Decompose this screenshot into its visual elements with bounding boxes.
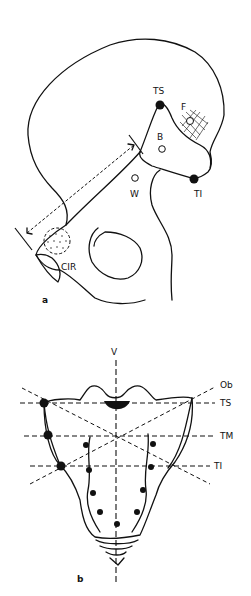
figure-canvas: TS F B W TI CIR a [0,0,251,596]
label-cir: CIR [61,262,76,272]
f-hatching [180,110,208,140]
label-ts: TS [152,86,164,96]
ts-point [156,101,165,110]
w-point [132,175,139,182]
ti-point-b [57,462,66,471]
b-point [159,146,166,153]
panel-a-ilium: TS F B W TI CIR a [15,39,224,305]
ti-point [190,175,199,184]
sacral-notch [140,152,195,300]
cir-stipple [47,233,66,248]
measurement-arrow [27,145,134,233]
obturator-foramen [89,228,142,279]
label-tm: TM [219,431,233,441]
tm-point-b [44,431,53,440]
foramina-right [132,434,148,532]
panel-b-sacrum: V Ob TS TM TI b [20,347,233,585]
label-ti-b: TI [213,461,222,471]
panel-b-label: b [77,574,84,584]
label-ob: Ob [220,380,233,390]
foramina-left [87,437,100,532]
label-w: W [130,189,139,199]
label-v: V [111,347,118,357]
ts-point-b [40,399,49,408]
panel-a-label: a [42,295,48,305]
label-b: B [157,132,163,142]
promontory [104,401,130,409]
coccyx [96,540,138,565]
label-f: F [181,102,186,112]
f-point [187,118,194,125]
acetabular-notch [36,254,60,282]
label-ts-b: TS [219,398,231,408]
label-ti: TI [193,189,202,199]
anterior-border [36,152,145,304]
